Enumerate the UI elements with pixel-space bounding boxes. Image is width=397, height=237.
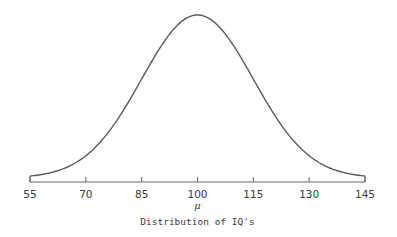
x-axis-ticks bbox=[30, 177, 365, 182]
chart-caption: Distribution of IQ's bbox=[140, 216, 254, 227]
x-tick-label-145: 145 bbox=[355, 188, 375, 200]
x-tick-label-100: 100 bbox=[187, 188, 207, 200]
mean-mu-label: μ bbox=[194, 200, 201, 211]
x-tick-label-55: 55 bbox=[23, 188, 36, 200]
x-tick-label-115: 115 bbox=[243, 188, 263, 200]
normal-distribution-chart: 557085100115130145 μ Distribution of IQ'… bbox=[0, 0, 397, 237]
x-axis-tick-labels: 557085100115130145 bbox=[23, 188, 375, 200]
x-tick-label-70: 70 bbox=[79, 188, 92, 200]
bell-curve bbox=[30, 15, 365, 176]
x-tick-label-85: 85 bbox=[135, 188, 148, 200]
x-tick-label-130: 130 bbox=[299, 188, 319, 200]
